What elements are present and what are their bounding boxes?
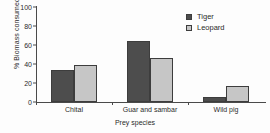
- bar-tiger-guar-and-sambar: [127, 41, 150, 102]
- x-tick-mark: [188, 102, 189, 105]
- bar-tiger-wild-pig: [203, 97, 226, 102]
- legend: Tiger Leopard: [186, 11, 225, 33]
- y-tick-mark: [33, 64, 36, 65]
- bar-group: [127, 7, 173, 102]
- y-tick-mark: [33, 83, 36, 84]
- y-tick-mark: [33, 7, 36, 8]
- legend-item-tiger: Tiger: [186, 11, 225, 22]
- y-tick-mark: [33, 26, 36, 27]
- y-tick-mark: [33, 45, 36, 46]
- x-tick-mark: [112, 102, 113, 105]
- legend-label-tiger: Tiger: [197, 12, 214, 21]
- x-tick-mark: [36, 102, 37, 105]
- x-axis-title: Prey species: [0, 119, 270, 126]
- plot-area: 020406080100: [36, 7, 264, 102]
- bar-leopard-wild-pig: [226, 86, 249, 102]
- bar-chart: % Biomass consumed 020406080100 Prey spe…: [0, 0, 270, 133]
- legend-swatch-leopard: [186, 25, 192, 31]
- bar-leopard-chital: [74, 65, 97, 102]
- bar-group: [51, 7, 97, 102]
- legend-label-leopard: Leopard: [197, 23, 225, 32]
- y-axis-title: % Biomass consumed: [13, 0, 20, 80]
- bar-tiger-chital: [51, 70, 74, 102]
- legend-swatch-tiger: [186, 14, 192, 20]
- x-axis-line: [36, 102, 266, 103]
- x-tick-label: Wild pig: [214, 106, 239, 113]
- bar-leopard-guar-and-sambar: [150, 58, 173, 102]
- legend-item-leopard: Leopard: [186, 22, 225, 33]
- x-tick-label: Guar and sambar: [123, 106, 177, 113]
- x-tick-label: Chital: [65, 106, 83, 113]
